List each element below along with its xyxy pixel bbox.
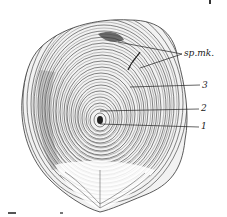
scale-drawing bbox=[0, 0, 227, 217]
scale-illustration: sp.mk. 3 2 1 bbox=[0, 0, 227, 217]
growth-rings bbox=[0, 0, 227, 217]
label-ring-2: 2 bbox=[201, 104, 207, 113]
label-ring-3: 3 bbox=[202, 81, 208, 90]
caption-fragment bbox=[8, 212, 16, 214]
corner-mark bbox=[209, 0, 211, 4]
label-sp-mk: sp.mk. bbox=[184, 49, 214, 58]
label-ring-1: 1 bbox=[201, 122, 207, 131]
caption-fragment bbox=[60, 212, 63, 214]
